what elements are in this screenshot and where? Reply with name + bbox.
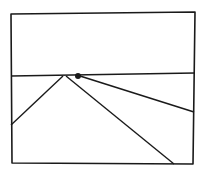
- frame-rectangle: [11, 12, 195, 164]
- vanishing-point-dot: [75, 73, 81, 79]
- line-diagram: [0, 0, 203, 174]
- horizon-line: [11, 73, 195, 76]
- left-diagonal-line: [11, 76, 63, 125]
- right-diagonal-line: [80, 76, 194, 112]
